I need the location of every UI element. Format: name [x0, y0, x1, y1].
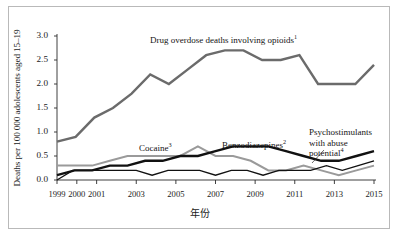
annotation-cocaine: Cocaine3	[139, 143, 172, 154]
chart-figure: Deaths per 100 000 adolescents aged 15–1…	[0, 0, 398, 235]
annotation-psychostimulants-line1: Psychostimulants	[309, 127, 372, 138]
annotation-psychostimulants: Psychostimulants with abuse potential4	[309, 127, 372, 159]
series-line-3	[57, 161, 374, 180]
annotation-opioids: Drug overdose deaths involving opioids1	[150, 35, 297, 46]
annotation-benzodiazepines: Benzodiazepines2	[222, 140, 286, 151]
annotation-psychostimulants-line3: potential4	[309, 148, 372, 159]
